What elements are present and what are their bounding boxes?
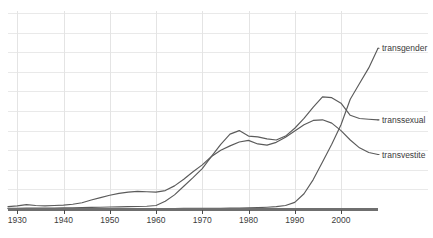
x-tick-label-1950: 1950 <box>100 215 119 225</box>
chart-canvas: 19301940195019601970198019902000 transve… <box>0 0 433 238</box>
ngram-chart: 19301940195019601970198019902000 transve… <box>0 0 433 238</box>
x-tick-label-1990: 1990 <box>285 215 304 225</box>
series-label-transgender[interactable]: transgender <box>382 43 428 53</box>
x-tick-label-1980: 1980 <box>239 215 258 225</box>
x-tick-label-2000: 2000 <box>332 215 351 225</box>
x-tick-label-1940: 1940 <box>54 215 73 225</box>
x-tick-label-1930: 1930 <box>8 215 27 225</box>
x-tick-label-1960: 1960 <box>147 215 166 225</box>
series-label-transsexual[interactable]: transsexual <box>382 115 426 125</box>
x-tick-label-1970: 1970 <box>193 215 212 225</box>
series-label-transvestite[interactable]: transvestite <box>382 150 426 160</box>
